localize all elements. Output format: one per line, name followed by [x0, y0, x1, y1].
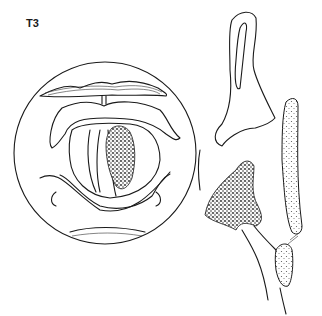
larynx-illustration: [0, 0, 322, 316]
laryngoscopic-view: [14, 62, 196, 244]
tumor-sagittal: [205, 161, 262, 230]
sagittal-view: [199, 12, 303, 314]
